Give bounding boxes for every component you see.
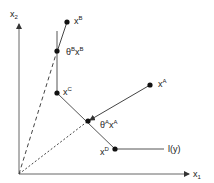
label-xA: xA	[158, 78, 167, 89]
ray-to-thetaA-xA	[19, 121, 88, 174]
point-thetaB-xB	[54, 48, 59, 53]
isoquant-diagram: x2 x1 xB θBxB xC θAxA xA xD l(y)	[0, 0, 214, 183]
point-xB	[64, 19, 69, 24]
label-isoquant: l(y)	[168, 144, 181, 154]
y-axis-label: x2	[10, 9, 19, 20]
point-xC	[54, 90, 59, 95]
label-thetaB-xB: θBxB	[66, 46, 84, 57]
point-xA	[147, 82, 152, 87]
label-xD: xD	[100, 146, 110, 157]
label-xB: xB	[74, 15, 83, 26]
segment-xA-to-thetaA	[90, 85, 150, 120]
ray-to-thetaB-xB	[19, 51, 57, 174]
x-axis-label: x1	[193, 169, 202, 180]
label-xC: xC	[63, 86, 73, 97]
point-thetaA-xA	[85, 118, 90, 123]
label-thetaA-xA: θAxA	[100, 119, 118, 130]
point-xD	[112, 146, 117, 151]
segment-xB-to-thetaB	[58, 22, 67, 49]
